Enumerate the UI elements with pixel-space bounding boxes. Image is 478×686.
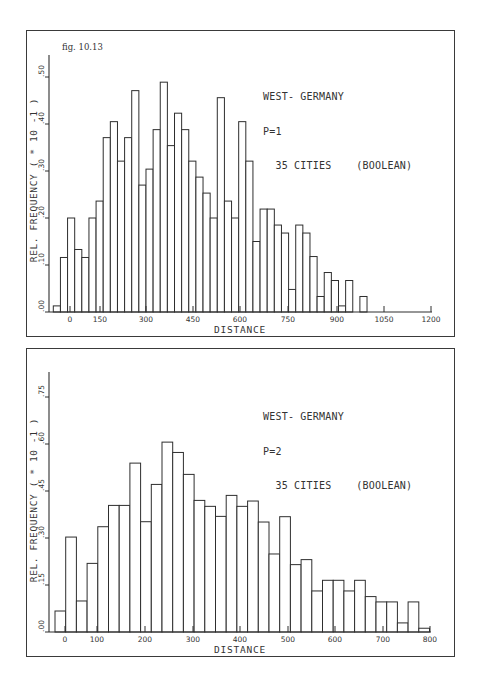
histogram-bar bbox=[66, 537, 77, 632]
histogram-p2: 0100200300400500600700800.00.15.30.45.60… bbox=[0, 0, 478, 686]
histogram-bar bbox=[301, 560, 312, 632]
histogram-bar bbox=[141, 522, 152, 632]
x-tick-label: 600 bbox=[328, 635, 343, 644]
histogram-bar bbox=[87, 563, 98, 632]
histogram-bar bbox=[76, 601, 87, 632]
histogram-bar bbox=[387, 602, 398, 632]
y-axis-title: REL. FREQUENCY ( * 10 -1 ) bbox=[28, 418, 39, 582]
histogram-bar bbox=[237, 506, 248, 632]
histogram-bar bbox=[183, 474, 194, 632]
histogram-bar bbox=[173, 452, 184, 632]
histogram-bar bbox=[194, 500, 205, 632]
x-axis-title: DISTANCE bbox=[214, 644, 266, 655]
x-tick-label: 0 bbox=[63, 635, 68, 644]
histogram-bar bbox=[323, 580, 334, 632]
histogram-bar bbox=[258, 522, 269, 632]
histogram-bar bbox=[365, 597, 376, 632]
histogram-bar bbox=[269, 554, 280, 632]
x-tick-label: 300 bbox=[186, 635, 201, 644]
histogram-bar bbox=[55, 611, 66, 632]
histogram-bar bbox=[290, 565, 301, 632]
histogram-bar bbox=[397, 623, 408, 632]
histogram-bar bbox=[205, 506, 216, 632]
x-tick-label: 400 bbox=[233, 635, 248, 644]
y-tick-label: .00 bbox=[37, 620, 46, 632]
histogram-bar bbox=[109, 505, 120, 632]
histogram-bar bbox=[419, 628, 430, 632]
histogram-bar bbox=[119, 505, 130, 632]
x-tick-label: 200 bbox=[138, 635, 153, 644]
histogram-bar bbox=[151, 484, 162, 632]
x-tick-label: 100 bbox=[90, 635, 105, 644]
histogram-bar bbox=[312, 591, 323, 632]
histogram-bar bbox=[376, 602, 387, 632]
histogram-bar bbox=[280, 517, 291, 632]
x-tick-label: 800 bbox=[423, 635, 438, 644]
plot-area: 0100200300400500600700800.00.15.30.45.60… bbox=[28, 372, 437, 655]
histogram-bar bbox=[98, 527, 109, 632]
histogram-bar bbox=[248, 501, 259, 632]
histogram-bar bbox=[216, 516, 227, 632]
histogram-bar bbox=[344, 591, 355, 632]
x-tick-label: 700 bbox=[376, 635, 391, 644]
x-tick-label: 500 bbox=[281, 635, 296, 644]
histogram-bar bbox=[355, 580, 366, 632]
histogram-bar bbox=[333, 580, 344, 632]
histogram-bar bbox=[162, 442, 173, 632]
histogram-bar bbox=[130, 463, 141, 632]
histogram-bar bbox=[226, 495, 237, 632]
histogram-bar bbox=[408, 602, 419, 632]
y-tick-label: .75 bbox=[37, 385, 46, 397]
